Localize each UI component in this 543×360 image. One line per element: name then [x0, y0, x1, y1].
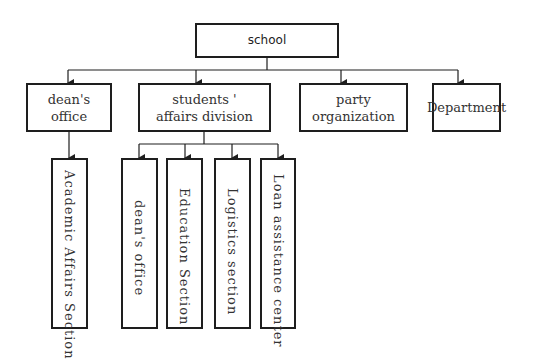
node-academic-affairs-section: Academic Affairs Section — [51, 158, 88, 329]
node-party-organization: party organization — [299, 83, 408, 132]
node-department: Department — [432, 83, 501, 132]
node-education-section: Education Section — [166, 158, 203, 329]
node-label: Department — [427, 99, 506, 116]
node-label: Loan assistance center — [270, 174, 287, 348]
node-school: school — [195, 23, 339, 58]
node-students-affairs-division: students ' affairs division — [138, 83, 271, 132]
node-label: Logistics section — [224, 188, 241, 315]
node-deans-office: dean's office — [26, 83, 112, 132]
node-logistics-section: Logistics section — [214, 158, 251, 329]
node-label: Education Section — [176, 188, 193, 325]
node-label: party organization — [312, 91, 395, 125]
node-loan-assistance-center: Loan assistance center — [260, 158, 296, 329]
node-label: dean's office — [48, 91, 90, 125]
node-label: dean's office — [131, 200, 148, 296]
node-deans-office-sub: dean's office — [121, 158, 158, 329]
node-label: school — [248, 32, 286, 49]
node-label: students ' affairs division — [156, 91, 253, 125]
node-label: Academic Affairs Section — [61, 170, 78, 360]
